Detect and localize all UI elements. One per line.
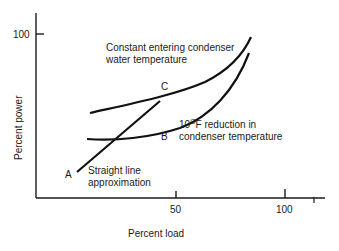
y-tick-label-100: 100 [13, 29, 30, 40]
annotation-constant-line2: water temperature [105, 54, 188, 65]
x-tick-label-50: 50 [170, 204, 182, 215]
x-tick-label-100: 100 [276, 204, 293, 215]
point-label-a: A [65, 169, 72, 180]
point-label-b: B [161, 131, 168, 142]
x-axis-label: Percent load [128, 228, 184, 239]
annotation-straight-line2: approximation [88, 177, 151, 188]
annotation-reduction-line2: condenser temperature [179, 131, 283, 142]
y-axis-label: Percent power [13, 95, 24, 160]
chart: 100 50 100 Percent load Percent power A … [0, 0, 339, 251]
annotation-straight-line1: Straight line [88, 165, 141, 176]
point-label-c: C [161, 81, 168, 92]
annotation-constant-line1: Constant entering condenser [106, 42, 235, 53]
annotation-reduction-line1: 10OF reduction in [179, 118, 256, 130]
